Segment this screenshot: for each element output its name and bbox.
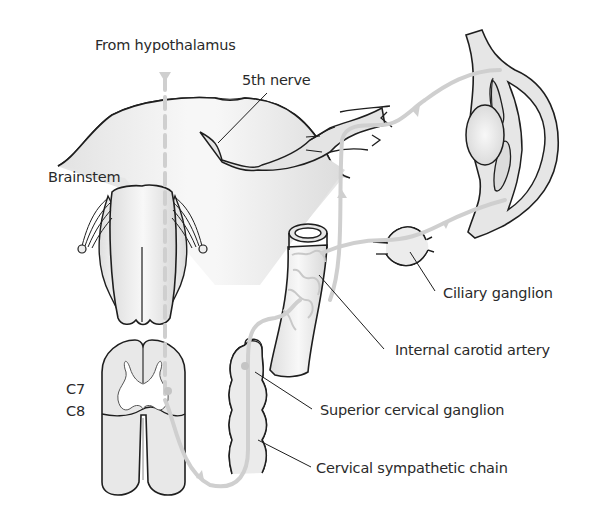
oculosympathetic-diagram: From hypothalamus 5th nerve Brainstem C7… [0, 0, 607, 517]
label-c7: C7 [66, 382, 85, 397]
label-cervical-sympathetic-chain: Cervical sympathetic chain [316, 461, 508, 476]
label-superior-cervical-ganglion: Superior cervical ganglion [320, 403, 504, 418]
label-c8: C8 [66, 404, 85, 419]
label-from-hypothalamus: From hypothalamus [95, 38, 236, 53]
label-internal-carotid-artery: Internal carotid artery [395, 343, 550, 358]
label-brainstem: Brainstem [48, 170, 121, 185]
label-ciliary-ganglion: Ciliary ganglion [443, 286, 553, 301]
label-fifth-nerve: 5th nerve [242, 73, 310, 88]
